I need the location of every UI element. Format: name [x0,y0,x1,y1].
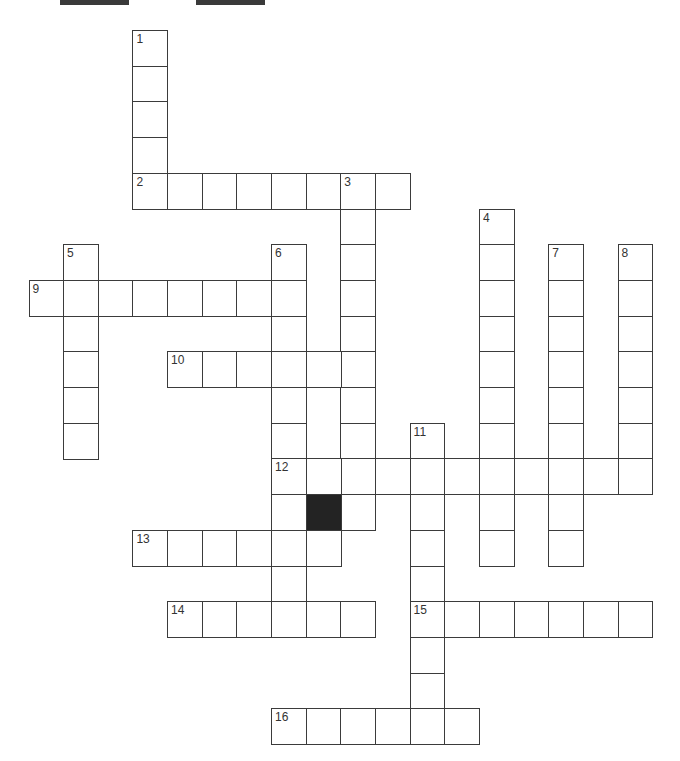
cell-input[interactable] [515,459,549,494]
cell-input[interactable] [480,352,514,387]
grid-cell[interactable] [236,351,272,388]
cell-input[interactable] [272,495,306,530]
grid-cell[interactable]: 4 [479,209,515,246]
grid-cell[interactable] [410,673,446,710]
cell-input[interactable] [445,709,479,744]
grid-cell[interactable] [479,423,515,460]
grid-cell[interactable]: 10 [167,351,203,388]
cell-input[interactable] [341,459,375,494]
grid-cell[interactable] [167,530,203,567]
grid-cell[interactable] [202,280,238,317]
cell-input[interactable] [480,281,514,316]
cell-input[interactable] [619,317,653,352]
cell-input[interactable] [411,674,445,709]
cell-input[interactable] [341,709,375,744]
grid-cell[interactable] [479,494,515,531]
cell-input[interactable] [480,317,514,352]
grid-cell[interactable] [583,601,619,638]
grid-cell[interactable] [271,566,307,603]
grid-cell[interactable] [618,387,654,424]
cell-input[interactable] [272,424,306,459]
cell-input[interactable] [619,281,653,316]
grid-cell[interactable] [340,351,376,388]
grid-cell[interactable] [548,601,584,638]
cell-input[interactable] [64,424,98,459]
cell-input[interactable] [549,317,583,352]
grid-cell[interactable]: 14 [167,601,203,638]
cell-input[interactable] [341,424,375,459]
cell-input[interactable] [341,317,375,352]
grid-cell[interactable] [306,173,342,210]
cell-input[interactable] [411,638,445,673]
cell-input[interactable] [272,459,306,494]
cell-input[interactable] [411,531,445,566]
grid-cell[interactable] [618,458,654,495]
cell-input[interactable] [203,531,237,566]
cell-input[interactable] [237,531,271,566]
grid-cell[interactable] [340,316,376,353]
cell-input[interactable] [133,138,167,173]
grid-cell[interactable] [548,316,584,353]
cell-input[interactable] [307,352,341,387]
cell-input[interactable] [99,281,133,316]
cell-input[interactable] [480,495,514,530]
cell-input[interactable] [64,281,98,316]
grid-cell[interactable] [271,280,307,317]
cell-input[interactable] [445,602,479,637]
grid-cell[interactable]: 1 [132,30,168,67]
cell-input[interactable] [584,602,618,637]
grid-cell[interactable] [479,530,515,567]
cell-input[interactable] [341,210,375,245]
cell-input[interactable] [203,281,237,316]
cell-input[interactable] [480,531,514,566]
cell-input[interactable] [480,210,514,245]
cell-input[interactable] [272,709,306,744]
cell-input[interactable] [376,709,410,744]
cell-input[interactable] [237,352,271,387]
grid-cell[interactable] [444,601,480,638]
grid-cell[interactable] [444,708,480,745]
grid-cell[interactable] [583,458,619,495]
grid-cell[interactable] [618,601,654,638]
grid-cell[interactable] [306,708,342,745]
cell-input[interactable] [64,245,98,280]
cell-input[interactable] [272,602,306,637]
grid-cell[interactable] [340,708,376,745]
cell-input[interactable] [549,388,583,423]
cell-input[interactable] [272,174,306,209]
cell-input[interactable] [133,281,167,316]
grid-cell[interactable] [340,244,376,281]
grid-cell[interactable] [167,173,203,210]
grid-cell[interactable] [340,280,376,317]
cell-input[interactable] [549,424,583,459]
grid-cell[interactable] [340,387,376,424]
grid-cell[interactable] [271,173,307,210]
grid-cell[interactable]: 8 [618,244,654,281]
grid-cell[interactable] [271,316,307,353]
grid-cell[interactable] [410,458,446,495]
grid-cell[interactable]: 9 [29,280,65,317]
cell-input[interactable] [411,424,445,459]
cell-input[interactable] [272,317,306,352]
cell-input[interactable] [619,602,653,637]
grid-cell[interactable] [98,280,134,317]
cell-input[interactable] [584,459,618,494]
cell-input[interactable] [341,388,375,423]
cell-input[interactable] [307,459,341,494]
grid-cell[interactable] [306,458,342,495]
grid-cell[interactable] [410,708,446,745]
cell-input[interactable] [549,495,583,530]
grid-cell[interactable] [63,280,99,317]
cell-input[interactable] [133,31,167,66]
grid-cell[interactable] [271,387,307,424]
cell-input[interactable] [133,102,167,137]
cell-input[interactable] [376,174,410,209]
grid-cell[interactable] [479,244,515,281]
grid-cell[interactable]: 16 [271,708,307,745]
grid-cell[interactable] [63,387,99,424]
cell-input[interactable] [411,602,445,637]
cell-input[interactable] [168,531,202,566]
grid-cell[interactable] [618,280,654,317]
grid-cell[interactable] [236,530,272,567]
cell-input[interactable] [203,602,237,637]
